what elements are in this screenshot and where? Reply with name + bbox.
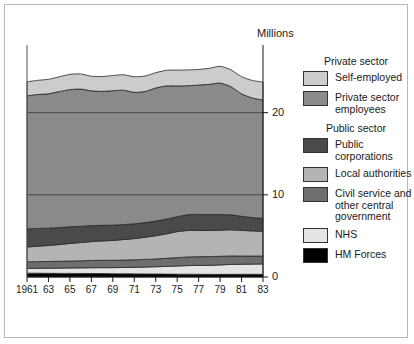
y-tick-label: 10 bbox=[272, 188, 284, 200]
legend-item[interactable]: Private sector employees bbox=[303, 91, 414, 115]
x-tick-label: 83 bbox=[257, 284, 268, 295]
x-tick-label: 71 bbox=[129, 284, 140, 295]
area-band bbox=[27, 83, 263, 229]
legend-swatch-icon bbox=[303, 167, 328, 182]
legend-group-title: Public sector bbox=[303, 122, 414, 134]
legend-swatch-icon bbox=[303, 138, 328, 153]
legend-swatch-icon bbox=[303, 71, 328, 86]
legend-item-label: NHS bbox=[335, 228, 357, 241]
x-tick-label: 79 bbox=[215, 284, 226, 295]
legend-item[interactable]: Local authorities bbox=[303, 167, 414, 182]
x-tick-label: 65 bbox=[64, 284, 75, 295]
legend-item-label: Self-employed bbox=[335, 71, 402, 84]
legend-item[interactable]: Self-employed bbox=[303, 71, 414, 86]
legend-item-label: HM Forces bbox=[335, 248, 386, 261]
x-tick-label: 69 bbox=[107, 284, 118, 295]
x-tick-label: 67 bbox=[86, 284, 97, 295]
legend-swatch-icon bbox=[303, 187, 328, 202]
x-tick-label: 63 bbox=[43, 284, 54, 295]
x-tick-label: 81 bbox=[236, 284, 247, 295]
x-tick-label: 77 bbox=[193, 284, 204, 295]
legend-item[interactable]: HM Forces bbox=[303, 248, 414, 263]
legend-item-label: Public corporations bbox=[335, 138, 414, 162]
x-tick-label: 1961 bbox=[16, 284, 38, 295]
legend-item-label: Private sector employees bbox=[335, 91, 414, 115]
chart-legend: Private sectorSelf-employedPrivate secto… bbox=[303, 55, 414, 268]
legend-swatch-icon bbox=[303, 248, 328, 263]
x-tick-label: 73 bbox=[150, 284, 161, 295]
legend-group-title: Private sector bbox=[303, 55, 414, 67]
legend-item[interactable]: NHS bbox=[303, 228, 414, 243]
legend-item-label: Civil service and other central governme… bbox=[335, 187, 414, 223]
legend-item-label: Local authorities bbox=[335, 167, 411, 180]
legend-item[interactable]: Public corporations bbox=[303, 138, 414, 162]
figure-frame: Millions 19616365676971737577798183 0102… bbox=[4, 4, 408, 338]
y-tick-label: 20 bbox=[272, 106, 284, 118]
legend-item[interactable]: Civil service and other central governme… bbox=[303, 187, 414, 223]
y-tick-label: 0 bbox=[272, 270, 278, 282]
legend-swatch-icon bbox=[303, 228, 328, 243]
legend-swatch-icon bbox=[303, 91, 328, 106]
x-tick-label: 75 bbox=[172, 284, 183, 295]
